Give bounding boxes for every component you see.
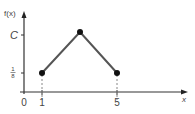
point-x5	[114, 70, 120, 76]
y-axis-label: f(x)	[4, 9, 16, 18]
y-tick-label-den: 8	[11, 73, 15, 79]
x-tick-label-5: 5	[114, 97, 120, 108]
point-peak	[77, 29, 83, 35]
y-tick-label-c: C	[10, 29, 18, 41]
x-tick-label-1: 1	[39, 97, 45, 108]
x-axis-label: x	[181, 95, 187, 104]
x-axis-arrow-icon	[181, 90, 188, 95]
y-tick-label-num: 1	[11, 66, 15, 72]
function-line	[42, 32, 117, 73]
origin-label: 0	[21, 97, 27, 108]
chart-canvas: f(x) x C 1 8 0 1 5	[0, 0, 195, 114]
y-axis-arrow-icon	[22, 11, 27, 18]
point-x1	[39, 70, 45, 76]
